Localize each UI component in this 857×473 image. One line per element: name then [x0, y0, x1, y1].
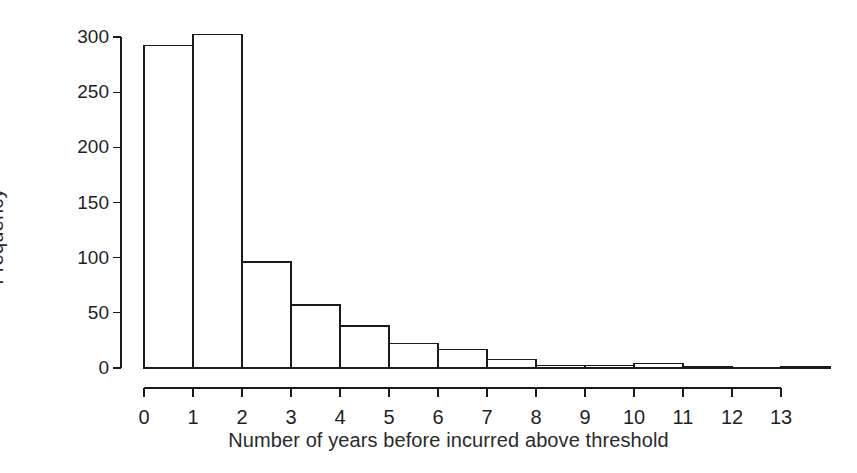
- x-tick-label: 0: [124, 406, 164, 429]
- plot-area: [0, 0, 857, 473]
- histogram-figure: Frequency 050100150200250300 01234567891…: [0, 0, 857, 473]
- histogram-bar: [291, 305, 340, 368]
- x-tick-label: 3: [271, 406, 311, 429]
- x-tick-label: 12: [712, 406, 752, 429]
- histogram-bar: [193, 35, 242, 368]
- x-tick-label: 9: [565, 406, 605, 429]
- x-tick-label: 4: [320, 406, 360, 429]
- y-axis: [113, 37, 121, 368]
- bars-group: [144, 35, 830, 369]
- histogram-bar: [781, 367, 830, 368]
- histogram-bar: [144, 46, 193, 368]
- x-tick-label: 7: [467, 406, 507, 429]
- histogram-bar: [340, 326, 389, 368]
- x-tick-label: 2: [222, 406, 262, 429]
- y-tick-label: 100: [49, 247, 109, 269]
- x-tick-label: 6: [418, 406, 458, 429]
- histogram-bar: [683, 367, 732, 368]
- y-tick-label: 300: [49, 26, 109, 48]
- y-tick-label: 0: [49, 357, 109, 379]
- histogram-bar: [732, 368, 781, 369]
- histogram-bar: [536, 366, 585, 368]
- y-tick-label: 250: [49, 81, 109, 103]
- x-tick-label: 11: [663, 406, 703, 429]
- x-axis: [144, 388, 781, 397]
- histogram-bar: [585, 366, 634, 368]
- histogram-bar: [487, 359, 536, 368]
- x-tick-label: 5: [369, 406, 409, 429]
- y-tick-label: 200: [49, 136, 109, 158]
- histogram-bar: [389, 344, 438, 368]
- histogram-bar: [634, 364, 683, 368]
- histogram-bar: [242, 262, 291, 368]
- x-tick-label: 10: [614, 406, 654, 429]
- x-axis-title: Number of years before incurred above th…: [0, 429, 857, 452]
- x-tick-label: 8: [516, 406, 556, 429]
- y-tick-label: 50: [49, 302, 109, 324]
- x-tick-label: 13: [761, 406, 801, 429]
- x-tick-label: 1: [173, 406, 213, 429]
- histogram-bar: [438, 349, 487, 368]
- y-tick-label: 150: [49, 192, 109, 214]
